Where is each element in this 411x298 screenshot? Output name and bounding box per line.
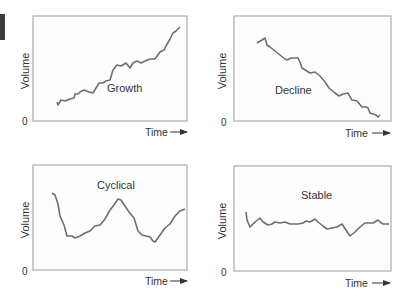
y-axis-label: Volume [19, 53, 31, 90]
x-axis-label: Time [145, 275, 168, 287]
panel-title: Decline [275, 84, 312, 96]
panel-cyclical: Cyclical Volume 0 Time [19, 165, 187, 287]
y-axis-label: Volume [19, 202, 31, 239]
panel-stable: Stable Volume 0 Time [216, 166, 391, 289]
x-axis-label: Time [345, 127, 368, 139]
y-origin-label: 0 [221, 117, 227, 128]
plot-frame [234, 16, 391, 121]
plot-frame [234, 166, 391, 271]
x-axis-label: Time [145, 126, 168, 138]
y-axis-label: Volume [216, 203, 228, 240]
plot-frame [33, 16, 187, 121]
y-origin-label: 0 [22, 116, 28, 127]
panel-decline: Decline Volume 0 Time [216, 16, 391, 139]
panel-title: Cyclical [97, 179, 135, 191]
y-origin-label: 0 [22, 266, 28, 277]
x-axis-label: Time [345, 277, 368, 289]
panel-title: Growth [107, 82, 142, 94]
y-axis-label: Volume [216, 53, 228, 90]
demand-patterns-figure: Growth Volume 0 Time Decline Volume 0 Ti… [0, 0, 411, 298]
panel-growth: Growth Volume 0 Time [19, 16, 187, 138]
panel-title: Stable [301, 189, 332, 201]
y-origin-label: 0 [221, 267, 227, 278]
